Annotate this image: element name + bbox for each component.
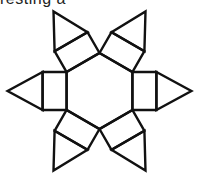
rectangle-face-5 (43, 72, 67, 110)
hexagon-net-diagram (0, 0, 199, 180)
triangle-face-5 (8, 72, 43, 110)
triangle-face-6 (54, 11, 88, 51)
triangle-face-4 (54, 131, 88, 171)
hexagon (67, 53, 133, 129)
triangle-face-2 (156, 72, 191, 110)
triangle-face-3 (112, 131, 146, 171)
triangle-face-1 (112, 11, 146, 51)
rectangle-face-2 (132, 72, 156, 110)
